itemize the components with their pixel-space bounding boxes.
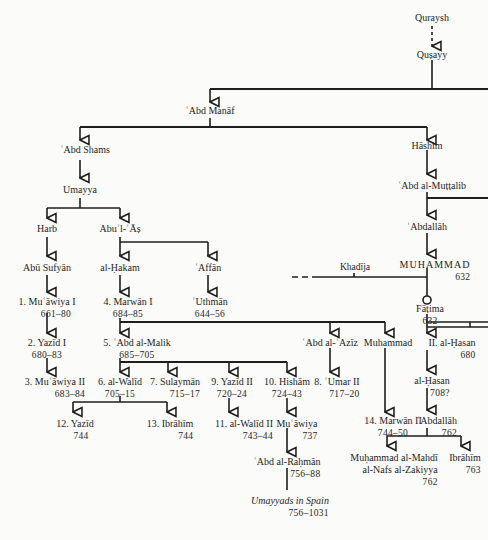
name: Muhammad [364,337,412,349]
name: 12. Yazīd [56,418,94,430]
node-yazid-2: 9. Yazīd II720–24 [211,376,253,400]
name: II. al-Ḥasan [428,337,475,349]
node-hisham: 10. Hishām724–43 [264,376,310,400]
name: Hāshim [411,140,442,152]
name: Umayya [63,184,97,196]
node-yazid-3: 12. Yazīd744 [56,418,94,442]
node-abdallah-father: ʿAbdallāh [407,221,447,233]
dates: 756–88 [254,468,321,480]
node-qusayy: Quṣayy [417,49,448,61]
epithet: al-Nafs al-Zakiyya [350,464,437,476]
node-abdallah-b-hasan: ʿAbdallāh762 [417,415,457,439]
node-quraysh: Quraysh [415,12,449,24]
node-umar-2: 8. ʿUmar II717–20 [314,376,359,400]
node-marwan-2: 14. Marwān II744–50 [364,415,421,439]
node-sulayman: 7. Sulaymān715–17 [150,376,200,400]
node-fatima: Fāṭima632 [416,303,444,327]
name: 13. Ibrāhīm [147,418,194,430]
node-muawiya-2: 3. Muʿāwiya II683–84 [25,376,85,400]
name: 5. ʿAbd al-Malik [103,337,171,349]
name: MUHAMMAD [400,259,471,271]
node-al-hasan-2: II. al-Ḥasan680 [428,337,475,361]
name: 4. Marwān I [103,296,152,308]
dates: 684–85 [103,308,152,320]
name: al-Ḥakam [100,262,139,274]
name: 6. al-Walīd [98,376,142,388]
name: 9. Yazīd II [211,376,253,388]
name: ʿAbdallāh [407,221,447,233]
node-al-hakam: al-Ḥakam [100,262,139,274]
name: 7. Sulaymān [150,376,200,388]
name: ʿAbd al-Raḥmān [254,456,321,468]
dates: 717–20 [314,388,359,400]
dates: 644–56 [192,308,228,320]
node-muawiya-b-hisham: Muʿāwiya737 [276,418,317,442]
node-umayyads-in-spain: Umayyads in Spain756–1031 [251,495,329,519]
name: ʿAbd Manāf [185,105,234,117]
name: Ibrāhīm [449,452,481,464]
name: ʿAffān [195,262,221,274]
node-khadija: Khadīja [340,261,370,273]
name: Quraysh [415,12,449,24]
name: Khadīja [340,261,370,273]
node-uthman: ʿUthmān644–56 [192,296,228,320]
node-abd-shams: ʿAbd Shams [60,144,110,156]
node-abul-as: Abuʾl-ʿĀṣ [99,223,140,235]
name: ʿAbd Shams [60,144,110,156]
dates: 762 [350,476,437,488]
dates: 744–50 [364,427,421,439]
name: 1. Muʿāwiya I [19,296,76,308]
name: 14. Marwān II [364,415,421,427]
dates: 708? [414,387,450,399]
name: ʿAbd al-ʿAzīz [302,337,358,349]
node-marwan-1: 4. Marwān I684–85 [103,296,152,320]
dates: 720–24 [211,388,253,400]
dates: 683–84 [25,388,85,400]
node-ibrahim-13: 13. Ibrāhīm744 [147,418,194,442]
name: al-Ḥasan [414,375,450,387]
node-muhammad: MUHAMMAD632 [400,259,471,283]
node-hashim: Hāshim [411,140,442,152]
node-affan: ʿAffān [195,262,221,274]
dates: 744 [56,430,94,442]
node-harb: Harb [37,223,57,235]
name: Muʿāwiya [276,418,317,430]
dates: 632 [400,271,471,283]
dates: 632 [416,315,444,327]
node-abd-manaf: ʿAbd Manāf [185,105,234,117]
name: Quṣayy [417,49,448,61]
name: ʿAbdallāh [417,415,457,427]
name: ʿAbd al-Muṭṭalib [398,180,466,192]
dates: 680 [428,349,475,361]
dates: 705–15 [98,388,142,400]
node-yazid-1: 2. Yazīd I680–83 [28,337,66,361]
node-muawiya-1: 1. Muʿāwiya I661–80 [19,296,76,320]
node-umayya: Umayya [63,184,97,196]
dates: 715–17 [150,388,200,400]
node-muhammad-al-mahdi: Muḥammad al-Mahdīal-Nafs al-Zakiyya762 [350,452,437,488]
dates: 680–83 [28,349,66,361]
dates: 743–44 [215,430,273,442]
dates: 763 [449,464,481,476]
name: Harb [37,223,57,235]
node-muhammad-b-marwan: Muhammad [364,337,412,349]
name: 10. Hishām [264,376,310,388]
dates: 685–705 [103,349,171,361]
dates: 756–1031 [251,507,329,519]
node-al-walid-2: 11. al-Walīd II743–44 [215,418,273,442]
name: 8. ʿUmar II [314,376,359,388]
node-abd-al-malik: 5. ʿAbd al-Malik685–705 [103,337,171,361]
name: Muḥammad al-Mahdī [350,452,437,464]
name: Abuʾl-ʿĀṣ [99,223,140,235]
name: Fāṭima [416,303,444,315]
dates: 744 [147,430,194,442]
node-ibrahim-b-abdallah: Ibrāhīm763 [449,452,481,476]
node-abu-sufyan: Abū Sufyān [23,262,71,274]
node-abd-al-aziz: ʿAbd al-ʿAzīz [302,337,358,349]
name: 11. al-Walīd II [215,418,273,430]
dates: 661–80 [19,308,76,320]
name: Umayyads in Spain [251,495,329,507]
name: ʿUthmān [192,296,228,308]
name: 3. Muʿāwiya II [25,376,85,388]
name: Abū Sufyān [23,262,71,274]
